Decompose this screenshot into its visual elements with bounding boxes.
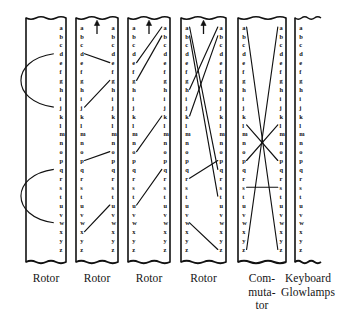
unit-6-left-contact-l: l xyxy=(299,122,301,129)
unit-4-right-contact-v: v xyxy=(219,211,223,218)
unit-5-right-contact-i: i xyxy=(279,95,281,102)
unit-5-left-contact-j: j xyxy=(241,104,244,111)
unit-4-right-contact-n: n xyxy=(219,139,223,146)
unit-5-right-contact-f: f xyxy=(279,68,282,75)
unit-5-left-contact-k: k xyxy=(242,113,246,120)
unit-6-left-contact-j: j xyxy=(298,104,301,111)
unit-4-left-contact-l: l xyxy=(185,122,187,129)
unit-5-right-contact-l: l xyxy=(279,122,281,129)
unit-6-left-contact-y: y xyxy=(299,237,303,244)
unit-3-left-contact-n: n xyxy=(132,139,136,146)
unit-3-left-contact-u: u xyxy=(132,202,136,209)
unit-2-wire-x-to-u xyxy=(85,205,110,232)
unit-5-left-contact-h: h xyxy=(242,86,246,93)
unit-4-left-contact-r: r xyxy=(185,175,188,182)
unit-1-right-contact-f: f xyxy=(59,68,62,75)
unit-2-right-contact-z: z xyxy=(111,246,114,253)
unit-4-left-contact-k: k xyxy=(185,113,189,120)
unit-3-left-contact-s: s xyxy=(132,184,135,191)
unit-2-left-contact-k: k xyxy=(80,113,84,120)
unit-2-right-contact-m: m xyxy=(111,130,117,137)
unit-2-group: aabbccddeeffgghhiijjkkllmmnnooppqqrrsstt… xyxy=(76,17,118,263)
enigma-wiring-diagram: abcdefghijklmnopqrstuvwxyzaabbccddeeffgg… xyxy=(0,0,360,316)
unit-3-right-contact-t: t xyxy=(163,193,166,200)
unit-5-right-contact-c: c xyxy=(279,41,282,48)
unit-2-right-contact-v: v xyxy=(111,211,115,218)
unit-3-right-contact-r: r xyxy=(163,175,166,182)
unit-2-left-contact-g: g xyxy=(80,77,84,84)
unit-5-right-contact-k: k xyxy=(279,113,283,120)
unit-2-right-contact-q: q xyxy=(111,166,115,173)
unit-4-bottom-edge xyxy=(181,261,226,263)
unit-2-right-contact-s: s xyxy=(111,184,114,191)
unit-5-left-contact-m: m xyxy=(242,130,248,137)
unit-4-left-contact-d: d xyxy=(185,50,189,57)
unit-2-left-contact-w: w xyxy=(80,219,85,226)
unit-6-caption-line: Glowlamps xyxy=(277,286,339,300)
unit-2-right-contact-t: t xyxy=(111,193,114,200)
unit-4-right-contact-u: u xyxy=(219,202,223,209)
unit-5-right-contact-u: u xyxy=(279,202,283,209)
unit-3-left-contact-l: l xyxy=(132,122,134,129)
unit-6-top-edge xyxy=(295,17,321,19)
unit-2-left-contact-c: c xyxy=(80,41,83,48)
unit-5-right-contact-n: n xyxy=(279,139,283,146)
unit-5-left-contact-i: i xyxy=(242,95,244,102)
unit-2-step-arrow-head xyxy=(94,20,99,25)
unit-3-left-contact-w: w xyxy=(132,219,137,226)
unit-6-left-contact-r: r xyxy=(299,175,302,182)
unit-2-left-contact-p: p xyxy=(80,157,84,164)
unit-5-left-contact-v: v xyxy=(242,211,246,218)
unit-3-left-contact-v: v xyxy=(132,211,136,218)
unit-2-left-contact-u: u xyxy=(80,202,84,209)
unit-2-left-contact-d: d xyxy=(80,50,84,57)
unit-5-left-contact-e: e xyxy=(242,59,245,66)
unit-5-left-contact-r: r xyxy=(242,175,245,182)
unit-4-left-contact-m: m xyxy=(185,130,191,137)
unit-6-left-contact-h: h xyxy=(299,86,303,93)
unit-2-right-contact-o: o xyxy=(111,148,114,155)
unit-4-right-contact-c: c xyxy=(219,41,222,48)
unit-4-right-contact-s: s xyxy=(219,184,222,191)
unit-4-left-contact-p: p xyxy=(185,157,189,164)
unit-1-right-contact-s: s xyxy=(59,184,62,191)
unit-5-right-contact-e: e xyxy=(279,59,282,66)
unit-2-right-contact-x: x xyxy=(111,228,115,235)
unit-3-wire-o-to-k xyxy=(137,116,162,152)
unit-3-bottom-edge xyxy=(128,261,170,263)
unit-4-right-contact-h: h xyxy=(219,86,223,93)
unit-4-right-contact-d: d xyxy=(219,50,223,57)
unit-2-left-contact-f: f xyxy=(80,68,83,75)
unit-2-top-edge xyxy=(76,17,118,19)
unit-3-right-contact-n: n xyxy=(163,139,167,146)
unit-5-right-contact-r: r xyxy=(279,175,282,182)
unit-4-group: aabbccddeeffgghhiijjkkllmmnnooppqqrrsstt… xyxy=(181,17,226,263)
unit-4-right-contact-t: t xyxy=(219,193,222,200)
unit-2-right-contact-f: f xyxy=(111,68,114,75)
unit-2-right-contact-y: y xyxy=(111,237,115,244)
unit-3-left-contact-p: p xyxy=(132,157,136,164)
unit-1-right-contact-c: c xyxy=(59,41,62,48)
unit-5-right-contact-y: y xyxy=(279,237,283,244)
unit-5-left-contact-s: s xyxy=(242,184,245,191)
unit-2-left-contact-q: q xyxy=(80,166,84,173)
unit-3-left-contact-o: o xyxy=(132,148,135,155)
unit-1-top-edge xyxy=(26,17,66,19)
unit-4-right-contact-p: p xyxy=(219,157,223,164)
unit-3-right-contact-v: v xyxy=(163,211,167,218)
unit-5-right-contact-t: t xyxy=(279,193,282,200)
unit-4-left-contact-o: o xyxy=(185,148,188,155)
unit-2-right-contact-i: i xyxy=(111,95,113,102)
unit-2-right-contact-j: j xyxy=(110,104,113,111)
unit-3-step-arrow-head xyxy=(146,20,151,25)
unit-4-left-contact-y: y xyxy=(185,237,189,244)
unit-5-bottom-edge xyxy=(238,261,286,263)
unit-1-right-contact-a: a xyxy=(59,24,63,31)
unit-3-right-contact-z: z xyxy=(163,246,166,253)
unit-1-right-contact-e: e xyxy=(59,59,62,66)
unit-3-left-contact-g: g xyxy=(132,77,136,84)
unit-5-left-contact-x: x xyxy=(242,228,246,235)
unit-1-right-contact-h: h xyxy=(59,86,63,93)
unit-2-left-contact-o: o xyxy=(80,148,83,155)
unit-6-left-contact-u: u xyxy=(299,202,303,209)
